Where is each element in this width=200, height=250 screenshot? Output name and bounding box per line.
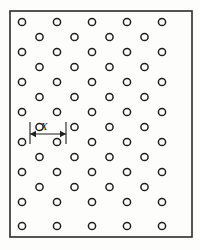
hole-pattern-diagram: X <box>0 0 200 250</box>
dimension-label-x: X <box>40 120 49 132</box>
figure-root: X <box>0 0 200 250</box>
